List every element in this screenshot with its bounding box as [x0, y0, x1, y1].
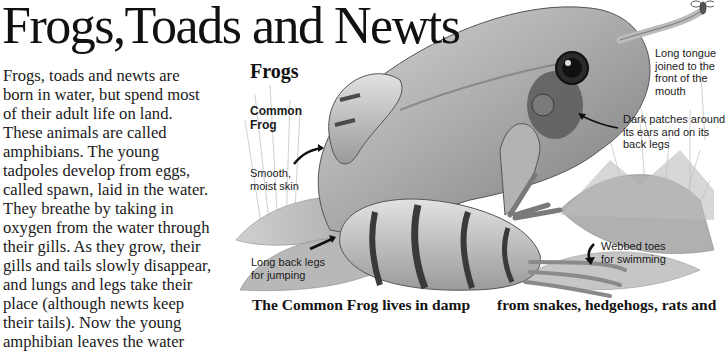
caption-right: from snakes, hedgehogs, rats and: [497, 296, 716, 314]
intro-paragraph: Frogs, toads and newts are born in water…: [3, 66, 253, 351]
intro-line: Frogs, toads and newts are: [3, 66, 253, 85]
intro-line: place (although newts keep: [3, 294, 253, 313]
species-label-line: Frog: [250, 118, 302, 132]
annotation-line: mouth: [655, 85, 716, 98]
intro-line: tadpoles develop from eggs,: [3, 161, 253, 180]
annotation-line: Long back legs: [251, 256, 325, 269]
caption-left: The Common Frog lives in damp: [252, 296, 470, 314]
annotation-tongue: Long tongue joined to the front of the m…: [655, 47, 716, 97]
annotation-line: joined to the: [655, 60, 716, 73]
species-label: Common Frog: [250, 104, 302, 132]
intro-line: called spawn, laid in the water.: [3, 180, 253, 199]
annotation-line: for swimming: [601, 253, 666, 266]
intro-line: their gills. As they grow, their: [3, 237, 253, 256]
annotation-line: its ears and on its: [623, 126, 725, 139]
intro-line: amphibians. The young: [3, 142, 253, 161]
annotation-line: front of the: [655, 72, 716, 85]
pointer-arrow-icon: [308, 234, 338, 252]
annotation-smooth-skin: Smooth, moist skin: [250, 167, 299, 192]
annotation-line: Webbed toes: [601, 240, 666, 253]
page-title: Frogs,Toads and Newts: [2, 0, 459, 56]
intro-line: their tails). Now the young: [3, 313, 253, 332]
annotation-dark-patches: Dark patches around its ears and on its …: [623, 113, 725, 151]
section-heading: Frogs: [250, 60, 299, 83]
frog-eardrum: [532, 94, 554, 116]
pointer-arrow-icon: [576, 110, 620, 132]
intro-line: They breathe by taking in: [3, 199, 253, 218]
annotation-back-legs: Long back legs for jumping: [251, 256, 325, 281]
annotation-line: for jumping: [251, 269, 325, 282]
annotation-line: moist skin: [250, 180, 299, 193]
intro-line: gills and tails slowly disappear,: [3, 256, 253, 275]
intro-line: and lungs and legs take their: [3, 275, 253, 294]
intro-line: of their adult life on land.: [3, 104, 253, 123]
pointer-arrow-icon: [292, 142, 326, 168]
annotation-webbed-toes: Webbed toes for swimming: [601, 240, 666, 265]
annotation-line: Smooth,: [250, 167, 299, 180]
intro-line: oxygen from the water through: [3, 218, 253, 237]
species-label-line: Common: [250, 104, 302, 118]
intro-line: These animals are called: [3, 123, 253, 142]
annotation-line: Long tongue: [655, 47, 716, 60]
pointer-arrow-icon: [582, 242, 598, 266]
intro-line: born in water, but spend most: [3, 85, 253, 104]
annotation-line: Dark patches around: [623, 113, 725, 126]
annotation-line: back legs: [623, 138, 725, 151]
intro-line: amphibian leaves the water: [3, 332, 253, 351]
